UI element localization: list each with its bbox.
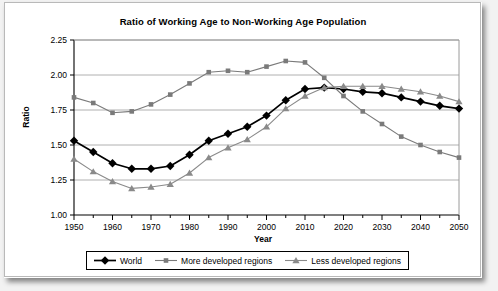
data-point-square bbox=[129, 109, 134, 114]
data-point-diamond bbox=[128, 165, 136, 173]
data-point-square bbox=[418, 143, 423, 148]
data-point-diamond bbox=[455, 104, 463, 112]
data-point-diamond bbox=[243, 123, 251, 131]
x-tick-label: 2050 bbox=[450, 222, 469, 232]
chart-paper: Ratio of Working Age to Non-Working Age … bbox=[4, 2, 482, 278]
x-tick-label: 1960 bbox=[103, 222, 122, 232]
data-point-triangle bbox=[109, 178, 116, 184]
y-tick-label: 1.75 bbox=[50, 105, 67, 115]
data-point-triangle bbox=[205, 154, 212, 160]
x-axis-tick-labels: 1950196019701980199020002010202020302040… bbox=[65, 222, 469, 232]
data-point-triangle bbox=[70, 156, 77, 162]
x-tick-label: 1980 bbox=[180, 222, 199, 232]
data-point-square bbox=[264, 64, 269, 69]
data-point-square bbox=[399, 134, 404, 139]
data-point-square bbox=[437, 150, 442, 155]
data-point-square bbox=[380, 122, 385, 127]
data-point-triangle bbox=[167, 181, 174, 187]
data-point-square bbox=[206, 70, 211, 75]
data-point-square bbox=[457, 155, 462, 160]
chart-legend: WorldMore developed regionsLess develope… bbox=[86, 251, 409, 270]
data-point-diamond bbox=[301, 85, 309, 93]
y-tick-label: 2.25 bbox=[50, 35, 67, 45]
data-point-square bbox=[322, 76, 327, 81]
data-point-square bbox=[168, 92, 173, 97]
data-point-square bbox=[283, 59, 288, 64]
data-point-diamond bbox=[436, 102, 444, 110]
data-point-diamond bbox=[416, 97, 424, 105]
data-point-diamond bbox=[397, 93, 405, 101]
data-point-triangle bbox=[90, 168, 97, 174]
data-point-square bbox=[245, 70, 250, 75]
legend-label: More developed regions bbox=[181, 256, 272, 266]
data-point-diamond bbox=[101, 256, 109, 264]
data-series-layer bbox=[70, 59, 463, 191]
y-tick-label: 1.50 bbox=[50, 140, 67, 150]
data-point-diamond bbox=[108, 159, 116, 167]
x-tick-label: 2040 bbox=[411, 222, 430, 232]
data-point-square bbox=[164, 258, 169, 263]
data-point-square bbox=[91, 101, 96, 106]
x-tick-label: 1950 bbox=[65, 222, 84, 232]
x-axis-title: Year bbox=[68, 234, 458, 244]
y-axis-title: Ratio bbox=[21, 87, 31, 147]
data-point-triangle bbox=[301, 93, 308, 99]
data-point-square bbox=[360, 109, 365, 114]
x-tick-label: 2000 bbox=[257, 222, 276, 232]
legend-swatch-triangle-icon bbox=[285, 255, 307, 266]
legend-label: World bbox=[120, 256, 142, 266]
data-point-square bbox=[72, 95, 77, 100]
legend-swatch-diamond-icon bbox=[94, 255, 116, 266]
data-point-square bbox=[226, 69, 231, 74]
data-point-diamond bbox=[147, 165, 155, 173]
y-tick-label: 1.00 bbox=[50, 210, 67, 220]
legend-swatch-square-icon bbox=[155, 255, 177, 266]
data-point-diamond bbox=[378, 89, 386, 97]
x-tick-label: 2010 bbox=[296, 222, 315, 232]
legend-item-world[interactable]: World bbox=[94, 255, 142, 266]
y-tick-label: 2.00 bbox=[50, 70, 67, 80]
data-point-diamond bbox=[224, 130, 232, 138]
legend-item-more-developed-regions[interactable]: More developed regions bbox=[155, 255, 272, 266]
x-tick-label: 1990 bbox=[219, 222, 238, 232]
legend-item-less-developed-regions[interactable]: Less developed regions bbox=[285, 255, 401, 266]
y-tick-label: 1.25 bbox=[50, 175, 67, 185]
x-tick-label: 2030 bbox=[373, 222, 392, 232]
data-point-triangle bbox=[244, 136, 251, 142]
data-point-square bbox=[187, 81, 192, 86]
screenshot-root: Ratio of Working Age to Non-Working Age … bbox=[0, 0, 498, 291]
data-point-square bbox=[303, 60, 308, 65]
data-point-square bbox=[341, 94, 346, 99]
x-tick-label: 1970 bbox=[142, 222, 161, 232]
data-point-diamond bbox=[89, 148, 97, 156]
x-tick-label: 2020 bbox=[334, 222, 353, 232]
data-point-diamond bbox=[166, 162, 174, 170]
data-point-square bbox=[149, 102, 154, 107]
legend-label: Less developed regions bbox=[311, 256, 401, 266]
data-point-triangle bbox=[282, 105, 289, 111]
chart-figure: Ratio of Working Age to Non-Working Age … bbox=[4, 2, 482, 278]
data-point-diamond bbox=[70, 137, 78, 145]
data-point-square bbox=[110, 111, 115, 116]
y-axis-tick-labels: 1.001.251.501.752.002.25 bbox=[50, 35, 67, 220]
